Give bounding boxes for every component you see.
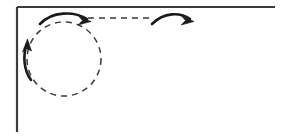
frame bbox=[17, 7, 275, 132]
figure-container bbox=[0, 0, 282, 138]
loop-top-arrow bbox=[40, 14, 91, 25]
diagram-canvas bbox=[0, 0, 282, 138]
dashed-loop-path bbox=[27, 22, 101, 96]
exit-arrow bbox=[152, 14, 194, 25]
loop-left-arrow-head bbox=[23, 39, 32, 52]
loop-top-arrow-shaft bbox=[40, 14, 87, 24]
